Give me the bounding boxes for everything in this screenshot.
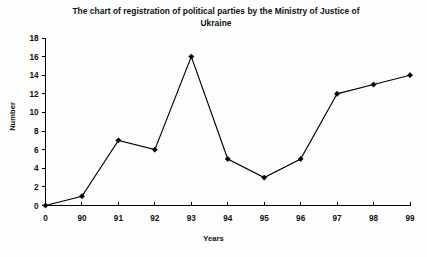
x-tick-group: 090919293949596979899 — [43, 202, 415, 223]
x-axis: 090919293949596979899 — [43, 202, 415, 223]
x-tick-label: 97 — [333, 214, 343, 223]
y-tick-label: 14 — [29, 71, 39, 80]
x-tick-label: 90 — [77, 214, 87, 223]
x-tick-label: 95 — [260, 214, 270, 223]
y-tick-label: 16 — [29, 53, 39, 62]
y-tick-label: 10 — [29, 108, 39, 117]
series-marker-group — [43, 54, 413, 208]
data-series — [43, 54, 413, 208]
x-tick-label: 94 — [223, 214, 233, 223]
x-tick-label: 0 — [43, 214, 48, 223]
y-axis: 024681012141618 — [29, 34, 45, 211]
data-point-marker — [189, 54, 194, 59]
y-tick-label: 6 — [34, 146, 39, 155]
data-point-marker — [371, 82, 376, 87]
plot-area: 024681012141618 090919293949596979899 — [0, 0, 427, 257]
data-point-marker — [152, 147, 157, 152]
x-tick-label: 99 — [405, 214, 415, 223]
y-tick-label: 0 — [34, 202, 39, 211]
x-tick-label: 98 — [369, 214, 379, 223]
y-tick-label: 18 — [29, 34, 39, 43]
x-tick-label: 91 — [114, 214, 124, 223]
data-point-marker — [43, 203, 48, 208]
data-point-marker — [225, 156, 230, 161]
y-tick-label: 8 — [34, 127, 39, 136]
y-tick-label: 12 — [29, 90, 39, 99]
data-point-marker — [335, 91, 340, 96]
x-tick-label: 93 — [187, 214, 197, 223]
y-tick-group: 024681012141618 — [29, 34, 45, 211]
x-tick-label: 96 — [296, 214, 306, 223]
line-chart: The chart of registration of political p… — [0, 0, 427, 257]
y-tick-label: 2 — [34, 183, 39, 192]
data-point-marker — [262, 175, 267, 180]
y-tick-label: 4 — [34, 164, 39, 173]
x-tick-label: 92 — [150, 214, 160, 223]
series-line — [46, 57, 411, 206]
data-point-marker — [298, 156, 303, 161]
data-point-marker — [407, 73, 412, 78]
